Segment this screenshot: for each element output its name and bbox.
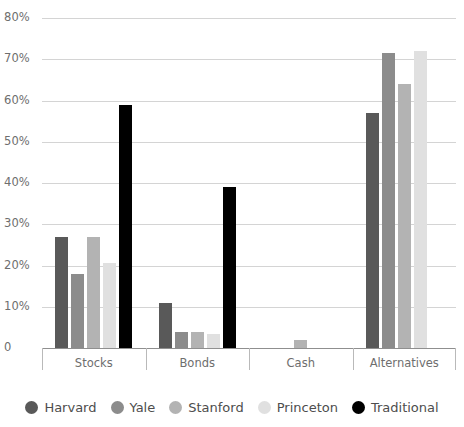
bar [382,53,395,348]
legend-swatch-icon [258,401,271,414]
y-tick-label: 10% [4,299,44,313]
bar [398,84,411,348]
legend-label: Yale [130,401,156,414]
bar [175,332,188,349]
bar-group [353,18,457,348]
category-tick [146,348,147,370]
category-label-stocks: Stocks [42,348,146,378]
bar [103,263,116,348]
category-text: Alternatives [370,356,439,370]
category-text: Stocks [75,356,113,370]
y-tick-label: 30% [4,216,44,230]
legend-item-princeton[interactable]: Princeton [258,401,338,414]
y-tick-label: 0 [4,340,44,354]
chart-legend: HarvardYaleStanfordPrincetonTraditional [0,392,464,422]
bar [207,334,220,348]
legend-item-yale[interactable]: Yale [111,401,156,414]
bar [294,340,307,348]
y-tick-label: 50% [4,134,44,148]
category-text: Bonds [179,356,215,370]
category-text: Cash [287,356,315,370]
bar [414,51,427,348]
category-tick [353,348,354,370]
category-label-bonds: Bonds [146,348,250,378]
bar [223,187,236,348]
y-tick-label: 60% [4,93,44,107]
bar-group [42,18,146,348]
bar [87,237,100,348]
legend-swatch-icon [111,401,124,414]
legend-item-stanford[interactable]: Stanford [169,401,243,414]
y-tick-label: 70% [4,51,44,65]
legend-swatch-icon [25,401,38,414]
y-tick-label: 80% [4,10,44,24]
bar-chart: 010%20%30%40%50%60%70%80% StocksBondsCas… [0,0,464,427]
bar [191,332,204,349]
legend-swatch-icon [169,401,182,414]
category-label-cash: Cash [249,348,353,378]
bar [119,105,132,348]
legend-item-traditional[interactable]: Traditional [352,401,439,414]
bar [71,274,84,348]
legend-label: Traditional [371,401,439,414]
legend-swatch-icon [352,401,365,414]
bar [366,113,379,348]
category-tick [249,348,250,370]
bar-groups [42,18,456,348]
legend-item-harvard[interactable]: Harvard [25,401,96,414]
category-tick [42,348,43,370]
category-axis: StocksBondsCashAlternatives [42,348,456,378]
y-tick-label: 40% [4,175,44,189]
category-tick [455,348,456,370]
category-label-alternatives: Alternatives [353,348,457,378]
bar-group [249,18,353,348]
bar [55,237,68,348]
y-tick-label: 20% [4,258,44,272]
legend-label: Harvard [44,401,96,414]
legend-label: Stanford [188,401,243,414]
bar [159,303,172,348]
bar-group [146,18,250,348]
legend-label: Princeton [277,401,338,414]
